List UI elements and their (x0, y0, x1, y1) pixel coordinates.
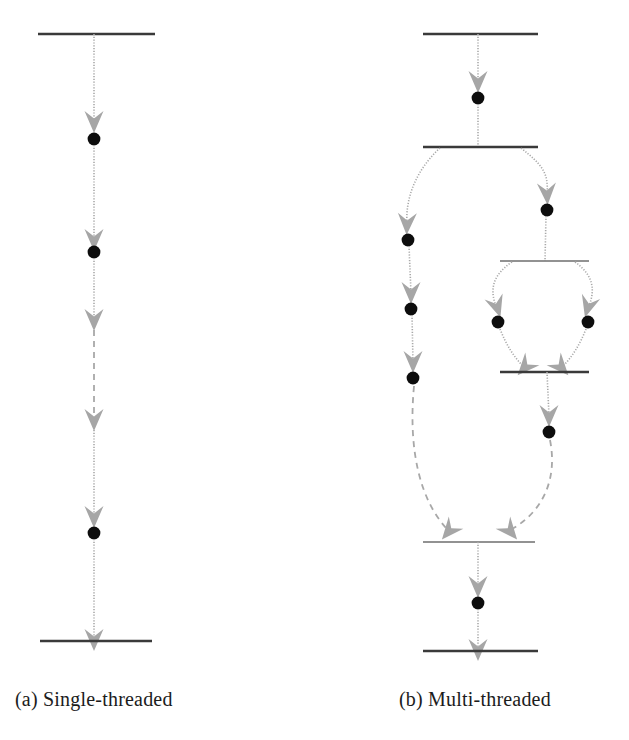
panel-multi-threaded (397, 34, 600, 661)
edge-inner-fork-to-inner-left-b (493, 262, 512, 306)
arrowhead-b-left-1 (397, 213, 417, 236)
node-b-main-1 (472, 92, 485, 105)
node-b-left-3 (407, 372, 420, 385)
edge-fork-to-left-branch-b (407, 148, 440, 224)
node-b-inner-left (492, 316, 505, 329)
node-b-left-1 (402, 234, 415, 247)
caption-single-threaded: (a) Single-threaded (15, 688, 173, 711)
edge-right1-to-inner-fork-b (545, 216, 546, 261)
node-b-final (472, 597, 485, 610)
edge-left3-to-join-b (412, 386, 447, 529)
node-a-2 (88, 246, 101, 259)
arrowhead-b-right-2 (540, 405, 559, 427)
arrowhead-a-1 (85, 111, 104, 133)
node-a-3 (88, 527, 101, 540)
panel-single-threaded (38, 34, 155, 651)
node-a-1 (88, 133, 101, 146)
figure-canvas: .bar { stroke: #3a3a3a; stroke-linecap: … (0, 0, 629, 740)
edge-fork-to-right-branch-b (521, 148, 547, 194)
edge-left1-to-left2-b (409, 246, 411, 293)
node-b-right-1 (541, 204, 554, 217)
edge-right2-to-join-b (512, 440, 552, 529)
node-b-inner-right (582, 316, 595, 329)
node-b-right-2 (543, 426, 556, 439)
caption-multi-threaded: (b) Multi-threaded (399, 688, 551, 711)
edge-inner-join-to-right2-b (547, 372, 549, 416)
edge-left2-to-left3-b (412, 315, 413, 362)
node-b-left-2 (405, 303, 418, 316)
edge-inner-left-to-inner-join-b (500, 329, 523, 366)
edge-inner-right-to-inner-join-b (563, 329, 586, 366)
